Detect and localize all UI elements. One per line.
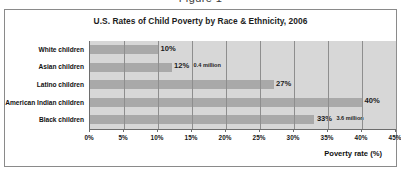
- x-axis-tick: [293, 129, 294, 132]
- gridline: [396, 41, 397, 129]
- chart-title: U.S. Rates of Child Poverty by Race & Et…: [5, 16, 396, 26]
- x-axis-tick: [259, 129, 260, 132]
- x-axis-tick-label: 10%: [151, 134, 164, 141]
- x-axis-tick-label: 40%: [355, 134, 368, 141]
- x-axis-tick: [191, 129, 192, 132]
- bar-row: 27%: [90, 76, 396, 94]
- x-axis-tick-label: 0%: [84, 134, 93, 141]
- x-axis-tick: [123, 129, 124, 132]
- figure-caption: Figure 1: [0, 0, 401, 4]
- bar-row: 12%0.4 million: [90, 59, 396, 77]
- gridline: [260, 41, 261, 129]
- gridline: [226, 41, 227, 129]
- x-axis-tick-label: 15%: [185, 134, 198, 141]
- x-axis-tick: [327, 129, 328, 132]
- plot-area: 10%12%0.4 million27%40%33%3.6 million: [89, 41, 396, 129]
- bar[interactable]: [90, 63, 172, 72]
- x-axis-tick: [361, 129, 362, 132]
- x-axis-tick-label: 35%: [321, 134, 334, 141]
- x-axis-tick-label: 20%: [219, 134, 232, 141]
- bar-annotation-label: 0.4 million: [194, 62, 221, 68]
- bar-value-label: 33%: [317, 114, 332, 123]
- bar-row: 33%3.6 million: [90, 111, 396, 129]
- chart-frame: U.S. Rates of Child Poverty by Race & Et…: [4, 9, 397, 167]
- x-axis-tick: [157, 129, 158, 132]
- category-axis-labels: White childrenAsian childrenLatino child…: [5, 41, 87, 129]
- x-axis-tick: [89, 129, 90, 132]
- bar-row: 10%: [90, 41, 396, 59]
- x-axis-line: [89, 129, 396, 130]
- bar[interactable]: [90, 80, 274, 89]
- x-axis-tick-label: 5%: [118, 134, 127, 141]
- bar-row: 40%: [90, 94, 396, 112]
- gridline: [158, 41, 159, 129]
- x-axis-tick-label: 45%: [389, 134, 401, 141]
- x-axis-tick: [225, 129, 226, 132]
- category-label: Black children: [39, 116, 84, 123]
- gridline: [328, 41, 329, 129]
- bar-annotation-label: 3.6 million: [336, 115, 363, 121]
- gridline: [124, 41, 125, 129]
- category-label: White children: [39, 46, 84, 53]
- bar-value-label: 40%: [365, 96, 380, 105]
- bars-layer: 10%12%0.4 million27%40%33%3.6 million: [90, 41, 396, 129]
- x-axis-tick-label: 25%: [253, 134, 266, 141]
- x-axis-tick: [395, 129, 396, 132]
- bar-value-label: 10%: [161, 44, 176, 53]
- x-axis-title: Poverty rate (%): [324, 149, 382, 158]
- gridline: [362, 41, 363, 129]
- category-label: Asian children: [39, 63, 84, 70]
- category-label: American Indian children: [5, 99, 84, 106]
- gridline: [294, 41, 295, 129]
- x-axis-tick-label: 30%: [287, 134, 300, 141]
- bar-value-label: 12%: [174, 61, 189, 70]
- bar-value-label: 27%: [276, 79, 291, 88]
- category-label: Latino children: [37, 81, 84, 88]
- gridline: [192, 41, 193, 129]
